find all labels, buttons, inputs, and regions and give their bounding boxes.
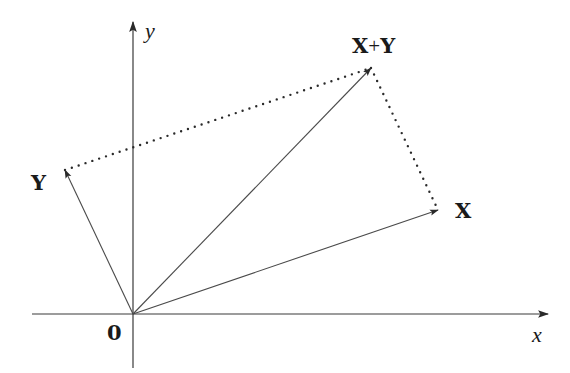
- vector-sum-label: X+Y: [352, 33, 396, 58]
- origin-label: 0: [107, 320, 122, 345]
- sum-label-plus: +: [368, 34, 380, 58]
- x-axis-label: x: [531, 322, 542, 347]
- vector-x: [133, 210, 438, 314]
- vector-x-label: X: [455, 198, 472, 223]
- vector-addition-diagram: y x 0 Y X X+Y: [0, 0, 570, 373]
- dotted-edge-sum-to-x: [371, 68, 438, 210]
- vector-y: [65, 170, 133, 314]
- sum-label-y: Y: [379, 33, 396, 58]
- vector-x-plus-y: [133, 68, 371, 314]
- sum-label-x: X: [352, 33, 369, 58]
- vector-y-label: Y: [30, 170, 47, 195]
- y-axis-label: y: [143, 18, 155, 43]
- dotted-edge-y-to-sum: [65, 68, 371, 170]
